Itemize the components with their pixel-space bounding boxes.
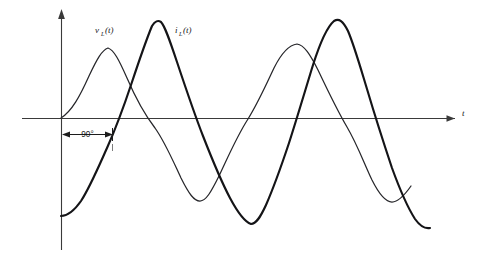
vertical-amplitude-axis (58, 9, 65, 250)
voltage-label-arg: (t) (105, 25, 114, 35)
vertical-axis-arrow-icon (58, 9, 65, 19)
waveform-plot: 90° v L (t) i L (t) t (0, 0, 480, 263)
voltage-series-label: v L (t) (95, 25, 114, 37)
voltage-label-base: v (95, 25, 99, 35)
phase-shift-dimension: 90° (62, 128, 113, 151)
current-label-base: i (175, 25, 178, 35)
phase-shift-label: 90° (81, 130, 93, 139)
time-axis-arrow-icon (447, 115, 456, 122)
phase-arrow-left-icon (62, 132, 70, 138)
voltage-waveform-curve (61, 44, 411, 202)
waveform-figure: 90° v L (t) i L (t) t (0, 0, 480, 263)
horizontal-time-axis (22, 115, 455, 122)
current-label-arg: (t) (183, 25, 192, 35)
current-series-label: i L (t) (175, 25, 192, 37)
time-axis-label: t (462, 108, 465, 118)
